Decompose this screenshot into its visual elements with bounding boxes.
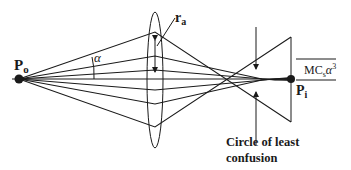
light-ray (19, 78, 291, 90)
aperture-radius-label: ra (175, 10, 186, 27)
image-point-label: Pi (296, 83, 308, 100)
image-point-dot (287, 75, 295, 83)
object-point-label: Po (14, 57, 29, 75)
circle-of-least-confusion-label-line2: confusion (226, 151, 277, 165)
circle-of-least-confusion-label-line1: Circle of least (226, 135, 300, 149)
aberration-magnitude-label: MCsα3 (304, 62, 336, 79)
angle-label: α (94, 50, 102, 65)
spherical-aberration-diagram: Po α ra Pi MCsα3 Circle of least confusi… (0, 0, 351, 170)
object-point-dot (15, 75, 24, 84)
